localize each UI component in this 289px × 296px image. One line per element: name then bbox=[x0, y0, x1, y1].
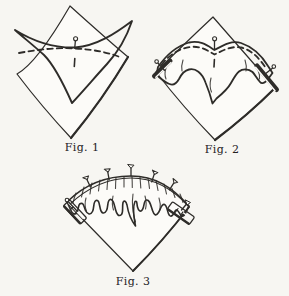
figure-1-drawing bbox=[0, 0, 145, 160]
base-square-fabric bbox=[17, 6, 128, 138]
figure-1-caption: Fig. 1 bbox=[57, 141, 107, 155]
figure-3-caption: Fig. 3 bbox=[108, 275, 158, 289]
pin-icon bbox=[128, 165, 134, 177]
pin-icon bbox=[265, 65, 276, 75]
grainline-mark bbox=[74, 59, 75, 67]
figure-2-drawing bbox=[145, 0, 289, 160]
base-fan-fabric bbox=[69, 178, 189, 271]
figure-2-caption: Fig. 2 bbox=[197, 143, 247, 157]
illustration-canvas: Fig. 1 Fig. 2 Fig. 3 bbox=[0, 0, 289, 296]
